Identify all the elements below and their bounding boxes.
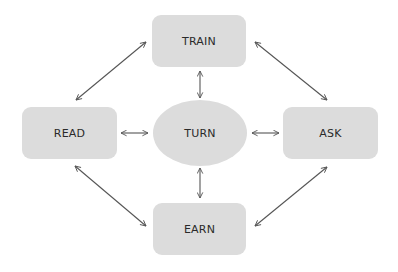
node-ask: ASK [283,107,378,159]
node-label: ASK [319,127,341,140]
node-turn: TURN [153,100,247,166]
node-read: READ [22,107,117,159]
arrow-read-train [76,42,146,100]
node-train: TRAIN [152,15,246,67]
node-label: TRAIN [182,35,216,48]
node-label: EARN [184,223,215,236]
node-earn: EARN [153,203,246,255]
node-label: TURN [184,127,215,140]
arrow-train-ask [255,42,327,100]
arrow-earn-ask [255,167,327,226]
node-label: READ [54,127,85,140]
arrow-read-earn [75,166,146,226]
